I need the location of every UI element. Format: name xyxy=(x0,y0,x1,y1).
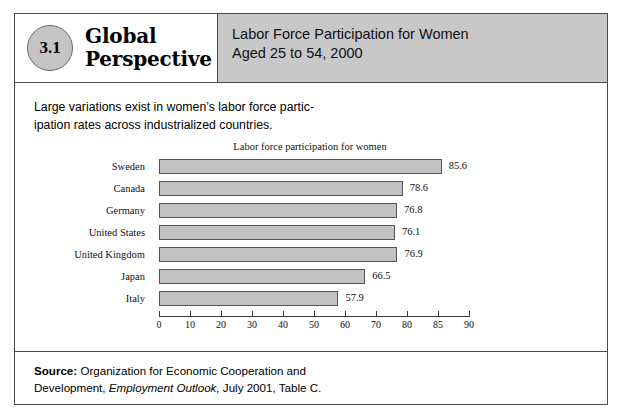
x-axis-tick xyxy=(159,311,160,317)
bar-category-label: Sweden xyxy=(15,160,145,174)
bar-category-label: Canada xyxy=(15,182,145,196)
intro-line-2: ipation rates across industrialized coun… xyxy=(34,117,434,135)
x-axis-tick-label: 30 xyxy=(247,319,257,330)
figure-body: Large variations exist in women’s labor … xyxy=(15,83,607,351)
chart-title: Labor force participation for women xyxy=(160,141,460,152)
x-axis-tick-label: 70 xyxy=(371,319,381,330)
x-axis-tick xyxy=(283,311,284,317)
bar-track: 66.5 xyxy=(159,269,607,284)
chart-bar xyxy=(159,181,403,196)
bar-value-label: 57.9 xyxy=(345,292,363,303)
figure-number-badge: 3.1 xyxy=(27,25,73,71)
chart-bar-row: Canada78.6 xyxy=(15,179,607,201)
bar-value-label: 66.5 xyxy=(372,270,390,281)
chart-bar-row: Germany76.8 xyxy=(15,201,607,223)
bar-track: 76.9 xyxy=(159,247,607,262)
bar-value-label: 78.6 xyxy=(410,182,428,193)
x-axis-tick xyxy=(407,311,408,317)
bar-track: 76.8 xyxy=(159,203,607,218)
x-axis-tick-label: 40 xyxy=(278,319,288,330)
source-publication: Employment Outlook, xyxy=(109,381,220,394)
bar-track: 57.9 xyxy=(159,291,607,306)
bar-value-label: 76.9 xyxy=(404,248,422,259)
x-axis-tick xyxy=(376,311,377,317)
x-axis-tick xyxy=(252,311,253,317)
chart-bar xyxy=(159,291,338,306)
bar-value-label: 76.8 xyxy=(404,204,422,215)
figure-source: Source: Organization for Economic Cooper… xyxy=(15,351,607,405)
source-publisher: Development, xyxy=(34,381,109,394)
chart-bar xyxy=(159,269,365,284)
bar-category-label: United Kingdom xyxy=(15,248,145,262)
figure-series-title-line1: Global xyxy=(85,25,212,48)
figure-title-line1: Labor Force Participation for Women xyxy=(232,25,607,44)
source-line-1: Source: Organization for Economic Cooper… xyxy=(34,363,607,380)
chart-bar-row: United Kingdom76.9 xyxy=(15,245,607,267)
chart-bar xyxy=(159,247,397,262)
bar-category-label: United States xyxy=(15,226,145,240)
figure-header-brand: 3.1 Global Perspective xyxy=(15,14,218,82)
x-axis-tick-label: 20 xyxy=(216,319,226,330)
bar-category-label: Germany xyxy=(15,204,145,218)
bar-category-label: Italy xyxy=(15,292,145,306)
bar-category-label: Japan xyxy=(15,270,145,284)
figure-series-title-line2: Perspective xyxy=(85,48,212,71)
x-axis-tick-label: 10 xyxy=(185,319,195,330)
chart-bar-row: Sweden85.6 xyxy=(15,157,607,179)
chart-plot-area: Sweden85.6Canada78.6Germany76.8United St… xyxy=(15,157,607,317)
chart-x-axis: 010203040506070808590 xyxy=(159,316,607,340)
x-axis-tick-label: 60 xyxy=(340,319,350,330)
bar-track: 76.1 xyxy=(159,225,607,240)
chart-bar xyxy=(159,203,397,218)
bar-chart: Labor force participation for women Swed… xyxy=(15,141,607,341)
source-date: July 2001, Table C. xyxy=(220,381,322,394)
bar-value-label: 76.1 xyxy=(402,226,420,237)
x-axis-tick-label: 90 xyxy=(464,319,474,330)
chart-bar-row: Italy57.9 xyxy=(15,289,607,311)
x-axis-tick-label: 50 xyxy=(309,319,319,330)
intro-paragraph: Large variations exist in women’s labor … xyxy=(34,99,434,134)
figure-header: 3.1 Global Perspective Labor Force Parti… xyxy=(15,14,607,83)
intro-line-1: Large variations exist in women’s labor … xyxy=(34,99,434,117)
x-axis-tick xyxy=(469,311,470,317)
bar-track: 78.6 xyxy=(159,181,607,196)
x-axis-tick xyxy=(438,311,439,317)
chart-bar xyxy=(159,225,395,240)
x-axis-tick xyxy=(190,311,191,317)
source-line-2: Development, Employment Outlook, July 20… xyxy=(34,380,607,397)
bar-track: 85.6 xyxy=(159,159,607,174)
source-label: Source: xyxy=(34,364,77,377)
chart-bar-row: Japan66.5 xyxy=(15,267,607,289)
x-axis-tick-label: 0 xyxy=(157,319,162,330)
x-axis-tick-label: 80 xyxy=(402,319,412,330)
figure-title-line2: Aged 25 to 54, 2000 xyxy=(232,44,607,63)
x-axis-tick xyxy=(345,311,346,317)
figure-series-title: Global Perspective xyxy=(85,25,212,71)
source-line-1-text: Organization for Economic Cooperation an… xyxy=(77,364,306,377)
x-axis-tick xyxy=(314,311,315,317)
bar-value-label: 85.6 xyxy=(449,160,467,171)
chart-bar-row: United States76.1 xyxy=(15,223,607,245)
x-axis-tick-label: 85 xyxy=(433,319,443,330)
figure-header-title: Labor Force Participation for Women Aged… xyxy=(218,14,607,82)
chart-bar xyxy=(159,159,442,174)
x-axis-tick xyxy=(221,311,222,317)
figure-container: 3.1 Global Perspective Labor Force Parti… xyxy=(14,13,608,405)
